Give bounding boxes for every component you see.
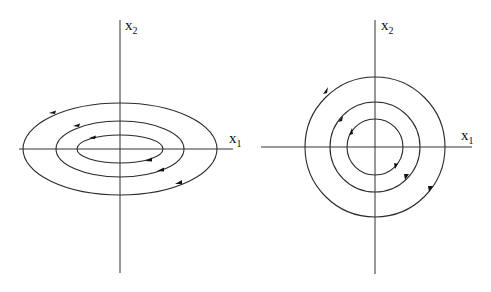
arrow-icon bbox=[323, 87, 328, 94]
left-x2-label: x2 bbox=[125, 17, 138, 36]
arrow-icon bbox=[394, 163, 398, 169]
right-x2-label: x2 bbox=[381, 17, 394, 36]
arrow-icon bbox=[49, 111, 56, 115]
left-diagram: x2 x1 bbox=[19, 17, 242, 273]
arrow-icon bbox=[73, 124, 80, 128]
arrow-icon bbox=[349, 128, 353, 135]
right-x1-label: x1 bbox=[461, 127, 474, 146]
arrow-icon bbox=[145, 158, 152, 162]
arrow-icon bbox=[175, 180, 182, 184]
left-x1-label: x1 bbox=[229, 130, 242, 149]
right-diagram: x2 x1 bbox=[261, 17, 474, 274]
arrow-icon bbox=[157, 168, 164, 172]
phase-portraits: x2 x1 x2 x1 bbox=[0, 0, 491, 292]
